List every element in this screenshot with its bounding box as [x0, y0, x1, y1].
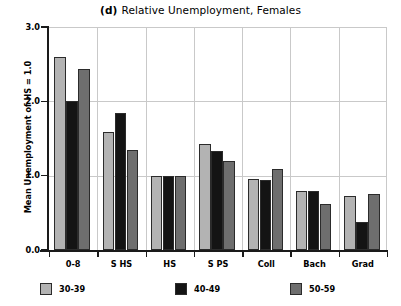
y-tick-mark — [41, 26, 48, 27]
group-separator — [290, 27, 291, 250]
y-tick-label: 0.0 — [0, 246, 40, 254]
x-tick-mark — [194, 251, 195, 257]
bar-Bach-50-59 — [320, 204, 332, 250]
bar-S-HS-50-59 — [127, 150, 139, 250]
chart-figure: (d)Relative Unemployment, Females Mean U… — [0, 0, 401, 306]
x-tick-mark — [339, 251, 340, 257]
bar-Coll-50-59 — [272, 169, 284, 250]
legend-swatch-30-39 — [40, 283, 52, 295]
x-tick-mark — [97, 251, 98, 257]
bar-Grad-30-39 — [344, 196, 356, 250]
x-tick-mark — [387, 251, 388, 257]
y-tick-mark — [41, 175, 48, 176]
bar-Grad-40-49 — [356, 222, 368, 250]
legend-swatch-40-49 — [175, 283, 187, 295]
bar-HS-50-59 — [175, 176, 187, 250]
y-tick-label: 1.0 — [0, 171, 40, 179]
bar-S-PS-50-59 — [223, 161, 235, 250]
x-tick-mark — [242, 251, 243, 257]
x-tick-label-Grad: Grad — [333, 259, 393, 269]
plot-frame-right — [386, 27, 387, 250]
bar-0-8-50-59 — [78, 69, 90, 250]
legend-item-30-39: 30-39 — [40, 281, 85, 297]
legend-label-40-49: 40-49 — [194, 284, 220, 294]
bar-Bach-40-49 — [308, 191, 320, 250]
legend-swatch-50-59 — [290, 283, 302, 295]
y-axis-label: Mean Unemployment of HS = 1.0 — [23, 47, 33, 227]
group-separator — [146, 27, 147, 250]
bar-Bach-30-39 — [296, 191, 308, 250]
bar-S-HS-40-49 — [115, 113, 127, 250]
x-tick-mark — [146, 251, 147, 257]
group-separator — [242, 27, 243, 250]
title-text: Relative Unemployment, Females — [121, 4, 301, 16]
bar-HS-40-49 — [163, 176, 175, 250]
x-tick-mark — [49, 251, 50, 257]
chart-legend: 30-3940-4950-59 — [40, 281, 370, 301]
x-axis-spine — [40, 250, 388, 252]
legend-item-50-59: 50-59 — [290, 281, 335, 297]
y-tick-label: 3.0 — [0, 23, 40, 31]
group-separator — [97, 27, 98, 250]
y-tick-label: 2.0 — [0, 97, 40, 105]
y-axis-spine — [47, 26, 49, 251]
bar-HS-30-39 — [151, 176, 163, 250]
bar-0-8-40-49 — [66, 101, 78, 250]
legend-label-50-59: 50-59 — [309, 284, 335, 294]
bar-Coll-30-39 — [248, 179, 260, 250]
gridline-y-3.0 — [49, 27, 387, 28]
bar-Coll-40-49 — [260, 180, 272, 250]
legend-item-40-49: 40-49 — [175, 281, 220, 297]
y-tick-mark — [41, 101, 48, 102]
bar-S-PS-30-39 — [199, 144, 211, 250]
plot-area — [49, 27, 387, 250]
bar-S-HS-30-39 — [103, 132, 115, 250]
chart-title: (d)Relative Unemployment, Females — [0, 4, 401, 16]
group-separator — [339, 27, 340, 250]
panel-letter: (d) — [100, 4, 117, 16]
legend-label-30-39: 30-39 — [59, 284, 85, 294]
gridline-y-2.0 — [49, 101, 387, 102]
bar-0-8-30-39 — [54, 57, 66, 250]
x-tick-mark — [290, 251, 291, 257]
group-separator — [194, 27, 195, 250]
bar-S-PS-40-49 — [211, 151, 223, 250]
bar-Grad-50-59 — [368, 194, 380, 250]
